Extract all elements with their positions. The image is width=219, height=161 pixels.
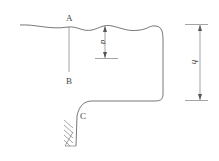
ground-hatching-icon bbox=[64, 120, 76, 146]
depth-dimension-a: a bbox=[95, 26, 118, 59]
height-label: h bbox=[190, 60, 200, 65]
arrow-up-icon bbox=[103, 26, 107, 32]
depth-label: a bbox=[99, 40, 109, 45]
label-a-point: A bbox=[66, 13, 73, 23]
arrow-down-icon bbox=[198, 94, 202, 100]
arrow-down-icon bbox=[103, 52, 107, 58]
label-b-point: B bbox=[66, 76, 72, 86]
arrow-up-icon bbox=[198, 25, 202, 31]
water-surface-and-channel-outline bbox=[20, 25, 163, 146]
diagram-canvas: A B a h C bbox=[0, 0, 219, 161]
label-c-point: C bbox=[80, 111, 86, 121]
height-dimension-h: h bbox=[185, 25, 208, 101]
